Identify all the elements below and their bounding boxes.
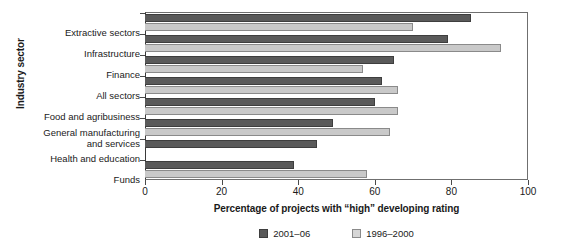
x-tick-label: 60 bbox=[355, 186, 395, 197]
x-tick-mark bbox=[222, 180, 223, 185]
bar-series-1 bbox=[145, 86, 398, 94]
x-tick-label: 0 bbox=[125, 186, 165, 197]
category-label: General manufacturing and services bbox=[18, 128, 140, 149]
bar-series-0 bbox=[145, 14, 471, 22]
bar-series-1 bbox=[145, 107, 398, 115]
bar-series-0 bbox=[145, 77, 382, 85]
category-tick-mark bbox=[140, 118, 145, 119]
x-tick-mark bbox=[145, 180, 146, 185]
bar-series-1 bbox=[145, 128, 390, 136]
legend-label-series-1: 1996–2000 bbox=[366, 228, 414, 239]
bar-series-0 bbox=[145, 98, 375, 106]
category-label-column: Extractive sectorsInfrastructureFinanceA… bbox=[18, 12, 140, 180]
bar-series-1 bbox=[145, 65, 363, 73]
bar-series-0 bbox=[145, 140, 317, 148]
category-tick-mark bbox=[140, 139, 145, 140]
bar-series-0 bbox=[145, 119, 333, 127]
bar-series-0 bbox=[145, 56, 394, 64]
category-tick-mark bbox=[140, 97, 145, 98]
x-tick-label: 40 bbox=[278, 186, 318, 197]
bars-layer bbox=[145, 12, 528, 180]
legend-item-series-0: 2001–06 bbox=[259, 228, 310, 239]
legend-swatch-icon-series-1 bbox=[352, 229, 361, 238]
x-tick-label: 100 bbox=[508, 186, 548, 197]
category-label: Finance bbox=[18, 70, 140, 81]
x-tick-mark bbox=[298, 180, 299, 185]
legend-item-series-1: 1996–2000 bbox=[352, 228, 414, 239]
x-tick-mark bbox=[528, 180, 529, 185]
x-tick-label: 20 bbox=[202, 186, 242, 197]
category-tick-mark bbox=[140, 34, 145, 35]
category-tick-mark bbox=[140, 160, 145, 161]
category-tick-mark bbox=[140, 76, 145, 77]
category-label: All sectors bbox=[18, 91, 140, 102]
x-tick-mark bbox=[375, 180, 376, 185]
bar-series-1 bbox=[145, 44, 501, 52]
category-label: Infrastructure bbox=[18, 49, 140, 60]
bar-series-1 bbox=[145, 170, 367, 178]
x-tick-label: 80 bbox=[431, 186, 471, 197]
category-label: Health and education bbox=[18, 154, 140, 165]
legend-label-series-0: 2001–06 bbox=[273, 228, 310, 239]
bar-series-0 bbox=[145, 161, 294, 169]
bar-series-0 bbox=[145, 35, 448, 43]
chart-legend: 2001–06 1996–2000 bbox=[145, 228, 528, 239]
category-tick-mark bbox=[140, 55, 145, 56]
category-label: Funds bbox=[18, 175, 140, 186]
x-tick-mark bbox=[451, 180, 452, 185]
category-tick-mark bbox=[140, 13, 145, 14]
category-label: Extractive sectors bbox=[18, 28, 140, 39]
chart-figure: Industry sector Extractive sectorsInfras… bbox=[0, 0, 572, 252]
x-axis-title: Percentage of projects with “high” devel… bbox=[145, 203, 528, 214]
bar-series-1 bbox=[145, 23, 413, 31]
legend-swatch-icon-series-0 bbox=[259, 229, 268, 238]
category-label: Food and agribusiness bbox=[18, 112, 140, 123]
